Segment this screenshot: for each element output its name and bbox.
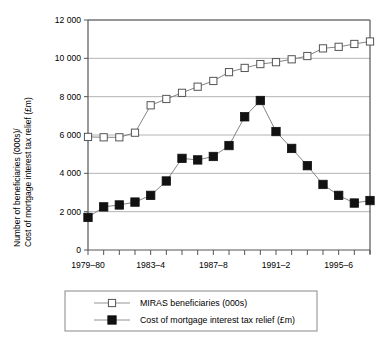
chart-legend: MIRAS beneficiaries (000s)Cost of mortga… [65,291,317,331]
x-axis-tick-labels: 1979–801983–41987–81991–21995–6 [71,260,353,270]
data-point-marker [131,198,139,206]
data-point-marker [240,113,248,121]
series-cost-of-tax-relief [84,96,374,221]
data-point-marker [178,89,185,96]
y-tick-label: 4 000 [59,168,81,178]
y-tick-label: 10 000 [55,53,82,63]
data-point-marker [351,40,358,47]
data-point-marker [319,45,326,52]
data-point-marker [272,59,279,66]
x-axis-ticks [88,250,370,255]
data-point-marker [209,152,217,160]
data-point-marker [193,156,201,164]
data-point-marker [194,83,201,90]
x-tick-label: 1991–2 [262,260,291,270]
data-point-marker [84,133,91,140]
y-tick-label: 8 000 [59,92,81,102]
data-point-marker [366,196,374,204]
legend-entry-label: Cost of mortgage interest tax relief (£m… [140,315,295,325]
data-point-marker [287,144,295,152]
y-axis-tick-labels: 02 0004 0006 0008 00010 00012 000 [55,15,88,255]
data-point-marker [131,129,138,136]
data-point-marker [335,43,342,50]
data-point-marker [210,77,217,84]
data-point-marker [115,201,123,209]
data-point-marker [257,60,264,67]
gridlines [88,20,370,212]
y-axis-title-line-1: Number of beneficiaries (000s)/ [12,15,23,247]
y-axis-title: Number of beneficiaries (000s)/ Cost of … [12,15,33,247]
data-point-marker [350,199,358,207]
y-axis-title-line-2: Cost of mortgage interest tax relief (£m… [23,15,34,247]
data-point-marker [334,191,342,199]
data-point-marker [225,141,233,149]
data-point-marker [84,213,92,221]
data-point-marker [99,203,107,211]
chart-plot-area: 02 0004 0006 0008 00010 00012 000 1979–8… [0,0,387,339]
data-point-marker [225,69,232,76]
x-tick-label: 1983–4 [136,260,165,270]
data-point-marker [163,95,170,102]
y-tick-label: 12 000 [55,15,82,25]
y-tick-label: 2 000 [59,207,81,217]
chart-figure: Number of beneficiaries (000s)/ Cost of … [0,0,387,339]
data-point-marker [272,127,280,135]
data-point-marker [178,154,186,162]
data-point-marker [116,134,123,141]
data-point-marker [162,177,170,185]
series-miras-beneficiaries [84,38,373,141]
axis-lines [88,20,370,254]
legend-marker-filled-square-icon [108,316,116,324]
data-point-marker [256,96,264,104]
x-tick-label: 1995–6 [324,260,353,270]
data-point-marker [303,161,311,169]
series-line [88,41,370,137]
y-tick-label: 6 000 [59,130,81,140]
data-point-marker [147,102,154,109]
data-point-marker [241,64,248,71]
x-tick-label: 1987–8 [199,260,228,270]
legend-marker-open-square-icon [108,299,115,306]
x-tick-label: 1979–80 [71,260,105,270]
y-tick-label: 0 [76,245,81,255]
series-line [88,101,370,218]
data-point-marker [304,52,311,59]
data-point-marker [146,191,154,199]
data-point-marker [288,56,295,63]
legend-entry-label: MIRAS beneficiaries (000s) [140,298,247,308]
data-point-marker [319,180,327,188]
data-point-marker [100,134,107,141]
data-point-marker [366,38,373,45]
